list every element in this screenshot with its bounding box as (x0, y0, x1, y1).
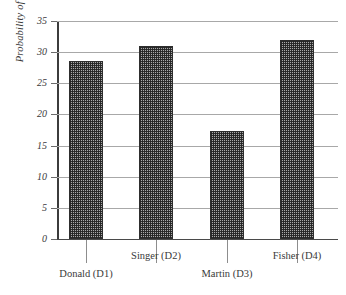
y-tick-label: 30 (25, 47, 47, 57)
y-tick-label-wrap: 30 (23, 47, 47, 57)
y-tick-label: 10 (25, 172, 47, 182)
y-tick-label: 25 (25, 78, 47, 88)
bar (280, 40, 314, 239)
x-tick-label: Fisher (D4) (273, 250, 322, 262)
y-tick-label-wrap: 15 (23, 141, 47, 151)
y-tick-label: 35 (25, 16, 47, 26)
x-tick-label: Martin (D3) (201, 268, 252, 280)
y-tick-label-wrap: 0 (23, 234, 47, 244)
y-tick-label-wrap: 5 (23, 203, 47, 213)
bar (69, 61, 103, 239)
bar-chart: Probability of Support 35302520151050 Do… (0, 0, 346, 295)
y-tick-label-wrap: 25 (23, 78, 47, 88)
bar (210, 131, 244, 239)
x-tick-label: Singer (D2) (131, 250, 181, 262)
y-tick-label-wrap: 20 (23, 109, 47, 119)
x-tick-label: Donald (D1) (59, 268, 112, 280)
y-tick-label: 0 (25, 234, 47, 244)
y-tick-label-wrap: 10 (23, 172, 47, 182)
plot-area (57, 21, 338, 239)
y-tick-label-wrap: 35 (23, 16, 47, 26)
gridline (57, 21, 338, 22)
axis-baseline (57, 239, 338, 240)
x-tick-mark (227, 240, 228, 263)
bar (139, 46, 173, 239)
y-tick-label: 15 (25, 141, 47, 151)
x-tick-mark (86, 240, 87, 263)
y-tick-label: 20 (25, 109, 47, 119)
y-tick-label: 5 (25, 203, 47, 213)
y-axis-title: Probability of Support (14, 0, 30, 78)
